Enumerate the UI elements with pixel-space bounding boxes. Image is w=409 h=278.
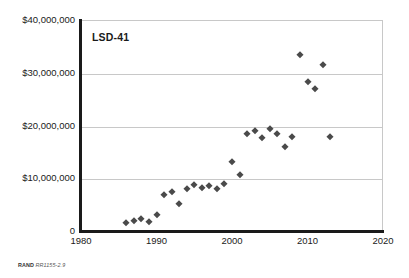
source-reference: RR1155-2.9 [36,262,66,268]
x-axis-tick-label: 1980 [61,235,101,246]
plot-area [81,20,383,231]
gridline [81,179,382,180]
figure-container: 0$10,000,000$20,000,000$30,000,000$40,00… [0,0,409,278]
gridline [81,74,382,75]
source-organization: RAND [18,262,34,268]
gridline [81,127,382,128]
series-label: LSD-41 [92,31,129,43]
x-axis-tick-label: 1990 [137,235,177,246]
x-axis-line [79,230,384,233]
x-axis-tick-label: 2020 [363,235,403,246]
y-axis-tick-label: $40,000,000 [2,15,75,25]
y-axis-tick-label: $20,000,000 [2,121,75,131]
y-axis-tick-label: $30,000,000 [2,68,75,78]
y-axis-tick-label: $10,000,000 [2,173,75,183]
source-note: RAND RR1155-2.9 [18,262,65,268]
y-axis-line [79,19,82,232]
x-axis-tick-label: 2000 [212,235,252,246]
x-axis-tick-label: 2010 [288,235,328,246]
